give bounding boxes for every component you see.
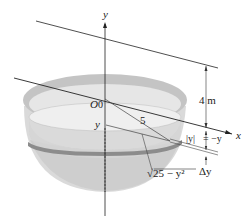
y-axis-label: y xyxy=(103,9,108,20)
abs-y-label: |y| xyxy=(186,134,195,144)
top-plane-line xyxy=(36,21,218,68)
radius-label: 5 xyxy=(140,115,146,126)
origin-label: O xyxy=(90,99,98,110)
origin-value-label: 0 xyxy=(98,100,103,110)
delta-y-arrow-icon xyxy=(205,156,207,160)
height-arrow-up-icon xyxy=(205,66,208,71)
slab-thickness-label: Δy xyxy=(199,166,212,177)
y-axis-arrow-icon xyxy=(103,22,107,28)
depth-variable-label: y xyxy=(95,119,100,130)
diagram-canvas xyxy=(0,0,250,219)
equals-neg-y-label: = −y xyxy=(203,134,222,144)
slab-radius-label: √25 − y² xyxy=(147,168,185,179)
height-label: 4 m xyxy=(199,95,216,106)
x-axis-label: x xyxy=(236,130,241,141)
x-axis-arrow-icon xyxy=(225,130,232,134)
hemisphere-tank-diagram: y x O 0 y 5 4 m |y| = −y √25 − y² Δy xyxy=(0,0,250,219)
abs-y-arrow-down-icon xyxy=(205,146,207,150)
